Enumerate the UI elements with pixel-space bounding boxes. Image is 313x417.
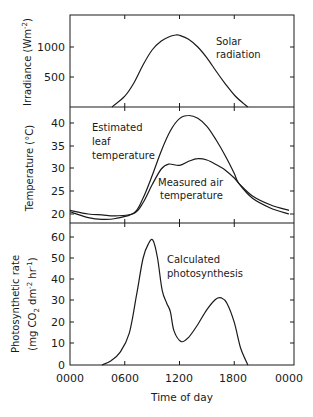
ps-tick-10: 10 [51,337,65,350]
x-tick-0600: 0600 [111,372,139,385]
leaf-annotation-line3: temperature [92,150,155,161]
solar-annotation-line1: Solar [216,36,242,47]
photosynthesis-y-axis-label-line2: (mg CO2 dm-2 hr-1) [26,257,41,350]
leaf-annotation-line1: Estimated [92,122,143,133]
temp-tick-30: 30 [51,162,65,175]
figure: 1000 500 Irradiance (Wm-2) Solar radiati… [0,0,313,417]
temp-tick-35: 35 [51,140,65,153]
x-axis: 0000 0600 1200 1800 0000 Time of day [56,372,303,403]
air-annotation-line1: Measured air [158,177,224,188]
temperature-y-axis-label: Temperature (°C) [24,125,35,212]
air-annotation-line2: temperature [160,190,223,201]
ps-tick-60: 60 [51,231,65,244]
ps-tick-0: 0 [58,359,65,372]
temp-tick-25: 25 [51,185,65,198]
ps-annotation-line1: Calculated [167,254,220,265]
ps-tick-40: 40 [51,273,65,286]
photosynthesis-y-axis-label-line1: Photosynthetic rate [10,255,21,353]
x-tick-0000-end: 0000 [275,372,303,385]
ps-tick-20: 20 [51,316,65,329]
ps-tick-30: 30 [51,294,65,307]
x-tick-1200: 1200 [165,372,193,385]
temp-tick-40: 40 [51,117,65,130]
ps-tick-50: 50 [51,252,65,265]
x-axis-label: Time of day [150,391,213,403]
temp-tick-20: 20 [51,208,65,221]
leaf-annotation-line2: leaf [92,136,111,147]
x-tick-0000-start: 0000 [56,372,84,385]
solar-annotation-line2: radiation [216,49,261,60]
photosynthesis-panel: 60 50 40 30 20 10 0 Photosynthetic rate … [10,231,248,372]
ps-annotation-line2: photosynthesis [167,268,243,279]
irradiance-y-axis-label: Irradiance (Wm-2) [21,18,33,106]
irradiance-tick-1000: 1000 [37,41,65,54]
irradiance-tick-500: 500 [44,71,65,84]
temperature-panel: 40 35 30 25 20 Temperature (°C) Estimate… [24,115,289,221]
irradiance-panel: 1000 500 Irradiance (Wm-2) Solar radiati… [21,18,261,107]
x-tick-1800: 1800 [219,372,247,385]
